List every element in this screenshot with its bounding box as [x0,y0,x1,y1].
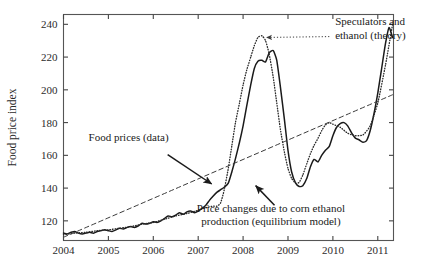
chart-figure: 20042005200620072008200920102011 1201401… [0,0,423,271]
y-tick-label: 140 [41,182,58,194]
annotation-corn-ethanol-equilibrium-model: Price changes due to corn ethanolproduct… [197,186,345,229]
x-tick-label: 2006 [142,244,165,256]
annotation-arrow [168,155,212,184]
y-tick-label: 180 [41,117,58,129]
y-tick-label: 220 [41,51,58,63]
annotation-speculators-ethanol-theory: Speculators andethanol (theory) [266,15,406,42]
y-tick-label: 120 [41,215,58,227]
x-axis-tick-labels: 20042005200620072008200920102011 [53,244,389,256]
annotation-food-prices-data: Food prices (data) [89,131,212,184]
x-tick-label: 2010 [322,244,345,256]
annotation-text: Speculators and [335,15,405,27]
annotation-text: ethanol (theory) [335,29,406,42]
y-axis-title: Food price index [6,88,19,166]
annotation-text: Price changes due to corn ethanol [197,202,345,214]
x-tick-label: 2009 [277,244,300,256]
x-tick-label: 2005 [97,244,120,256]
chart-annotations-layer: Speculators andethanol (theory)Food pric… [89,15,406,228]
food-price-index-chart: 20042005200620072008200920102011 1201401… [0,0,423,271]
x-tick-label: 2008 [232,244,255,256]
x-tick-label: 2004 [53,244,76,256]
annotation-arrow [266,37,329,38]
annotation-text: production (equilibrium model) [201,215,341,228]
y-tick-label: 200 [41,84,58,96]
y-tick-label: 160 [41,149,58,161]
y-axis-tick-labels: 120140160180200220240 [41,18,58,227]
annotation-text: Food prices (data) [89,131,169,144]
x-tick-label: 2011 [367,244,389,256]
y-tick-label: 240 [41,18,58,30]
x-tick-label: 2007 [187,244,210,256]
